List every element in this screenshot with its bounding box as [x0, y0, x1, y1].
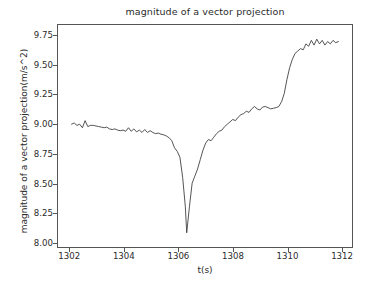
x-axis-label: t(s): [57, 265, 353, 275]
series-polyline: [72, 39, 339, 233]
x-tick-label: 1308: [211, 251, 255, 261]
y-tick-label: 9.50: [13, 60, 53, 70]
x-tick-label: 1310: [266, 251, 310, 261]
x-tick-label: 1302: [47, 251, 91, 261]
x-tick-mark: [69, 248, 70, 252]
x-tick-mark: [233, 248, 234, 252]
y-tick-mark: [53, 184, 57, 185]
y-tick-mark: [53, 243, 57, 244]
y-tick-label: 9.00: [13, 119, 53, 129]
y-tick-label: 8.25: [13, 208, 53, 218]
y-tick-label: 8.00: [13, 238, 53, 248]
figure-canvas: magnitude of a vector projection magnitu…: [0, 0, 375, 286]
x-tick-mark: [342, 248, 343, 252]
y-tick-mark: [53, 35, 57, 36]
plot-area: [57, 24, 353, 248]
y-tick-mark: [53, 65, 57, 66]
x-tick-mark: [124, 248, 125, 252]
y-tick-mark: [53, 154, 57, 155]
x-tick-mark: [178, 248, 179, 252]
x-tick-label: 1306: [156, 251, 200, 261]
y-tick-mark: [53, 124, 57, 125]
x-tick-label: 1312: [320, 251, 364, 261]
y-tick-label: 8.50: [13, 179, 53, 189]
x-tick-label: 1304: [102, 251, 146, 261]
chart-title: magnitude of a vector projection: [57, 6, 353, 17]
x-tick-mark: [288, 248, 289, 252]
data-line-series: [58, 25, 352, 247]
y-tick-mark: [53, 213, 57, 214]
y-tick-mark: [53, 94, 57, 95]
y-tick-label: 9.25: [13, 89, 53, 99]
y-tick-label: 9.75: [13, 30, 53, 40]
y-tick-label: 8.75: [13, 149, 53, 159]
